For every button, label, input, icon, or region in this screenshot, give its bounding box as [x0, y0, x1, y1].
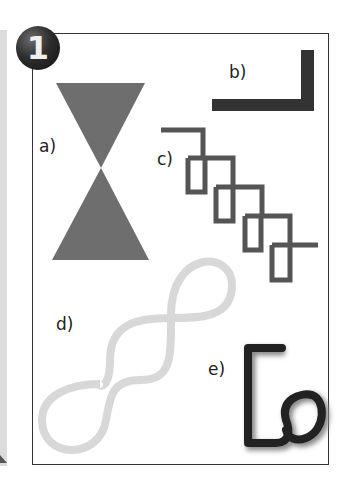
label-a: a)	[39, 136, 56, 156]
shape-c-loop-chain	[161, 130, 318, 280]
shape-e-hook-loop	[248, 348, 325, 446]
label-b: b)	[229, 62, 246, 82]
shape-a-hourglass	[52, 83, 149, 260]
shapes-canvas	[0, 0, 345, 478]
label-d: d)	[56, 314, 73, 334]
label-e: e)	[208, 359, 225, 379]
exercise-number-badge: 1	[16, 26, 60, 70]
shape-b-l-line	[212, 50, 314, 111]
label-c: c)	[157, 149, 173, 169]
shape-d-figure-eight	[42, 262, 232, 450]
